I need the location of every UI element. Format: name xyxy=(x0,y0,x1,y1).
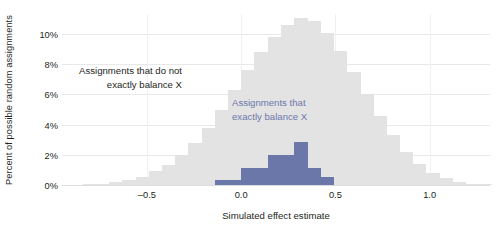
gray-series-annotation: Assignments that do not exactly balance … xyxy=(22,64,182,91)
x-tick-label: 1.0 xyxy=(423,190,436,200)
y-tick-label: 4% xyxy=(20,121,58,131)
y-tick-label: 6% xyxy=(20,90,58,100)
y-axis-title: Percent of possible random assignments xyxy=(0,0,18,200)
histogram-bar xyxy=(294,142,308,185)
y-tick-label: 10% xyxy=(20,30,58,40)
histogram-bar xyxy=(307,168,321,185)
x-tick-label: –0.5 xyxy=(138,190,156,200)
y-axis-title-text: Percent of possible random assignments xyxy=(4,15,14,185)
x-axis-tick-labels: –0.50.00.51.0 xyxy=(62,190,490,206)
histogram-bar xyxy=(228,180,242,185)
x-axis-title: Simulated effect estimate xyxy=(62,210,490,221)
histogram-bar xyxy=(320,177,334,185)
y-tick-label: 0% xyxy=(20,181,58,191)
histogram-bar xyxy=(268,155,282,185)
histogram-bar xyxy=(215,180,229,185)
x-tick-label: 0.0 xyxy=(235,190,248,200)
y-tick-label: 2% xyxy=(20,151,58,161)
blue-series-annotation: Assignments that exactly balance X xyxy=(232,96,372,123)
histogram-chart: Percent of possible random assignments 0… xyxy=(0,0,496,236)
histogram-bar xyxy=(254,168,268,185)
x-tick-label: 0.5 xyxy=(329,190,342,200)
histogram-bar xyxy=(281,155,295,185)
y-axis-tick-labels: 0%2%4%6%8%10% xyxy=(18,0,58,236)
histogram-bar xyxy=(241,168,255,185)
